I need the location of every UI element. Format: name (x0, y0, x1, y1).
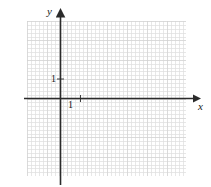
axes-layer (0, 0, 211, 187)
coordinate-plane-figure: y x 1 1 (0, 0, 211, 187)
x-axis-tick-label-1: 1 (68, 100, 73, 110)
y-axis-tick-label-1: 1 (51, 74, 56, 84)
y-axis-label: y (47, 6, 52, 17)
x-axis-label: x (198, 101, 203, 112)
